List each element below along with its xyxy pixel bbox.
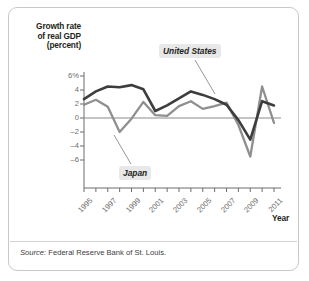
figure-panel: Growth rate of real GDP (percent) Year 6…	[8, 7, 299, 271]
series-label-japan: Japan	[119, 166, 151, 180]
y-axis-tick-marks	[80, 76, 84, 160]
x-axis-tick-marks	[84, 188, 274, 192]
data-line-united-states	[84, 85, 274, 140]
y-tick-label: –2	[49, 127, 79, 136]
source-text: Federal Reserve Bank of St. Louis.	[48, 248, 166, 257]
y-tick-label: –6	[49, 155, 79, 164]
chart-plot-area: Growth rate of real GDP (percent) Year 6…	[9, 8, 298, 240]
y-tick-label: 0	[49, 113, 79, 122]
y-tick-label: 2	[49, 99, 79, 108]
leader-line-japan	[114, 135, 131, 164]
source-divider	[10, 241, 297, 242]
y-tick-label: –4	[49, 141, 79, 150]
source-note: Source: Federal Reserve Bank of St. Loui…	[20, 248, 166, 257]
leader-line-united-states	[195, 60, 215, 94]
series-label-united-states: United States	[159, 44, 221, 58]
y-tick-label: 6%	[49, 71, 79, 80]
y-tick-label: 4	[49, 85, 79, 94]
source-prefix: Source:	[20, 248, 46, 257]
